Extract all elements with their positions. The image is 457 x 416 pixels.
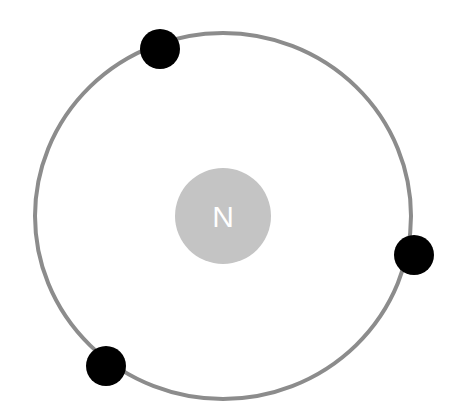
atom-diagram: N [0, 0, 457, 416]
electron-1 [140, 29, 180, 69]
nucleus-label: N [212, 200, 234, 233]
electron-2 [394, 235, 434, 275]
electron-3 [86, 346, 126, 386]
